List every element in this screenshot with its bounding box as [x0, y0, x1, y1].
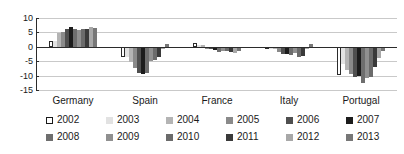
- legend-item[interactable]: 2007: [346, 114, 379, 126]
- bar-group: [37, 18, 109, 90]
- category-label: Portugal: [342, 95, 379, 107]
- bar: [93, 28, 97, 47]
- y-tick-label: -10: [20, 71, 33, 80]
- plot-area: [37, 18, 397, 90]
- legend: 200220032004200520062007 200820092010201…: [37, 114, 397, 148]
- gridline: [37, 90, 397, 91]
- legend-swatch-icon: [166, 117, 173, 124]
- legend-item[interactable]: 2003: [106, 114, 139, 126]
- legend-swatch-icon: [286, 117, 293, 124]
- legend-label: 2002: [57, 114, 79, 126]
- bar-group: [109, 18, 181, 90]
- y-tick-mark: [36, 76, 39, 77]
- category-axis-labels: GermanySpainFranceItalyPortugal: [37, 95, 397, 109]
- bar-group: [325, 18, 397, 90]
- category-label: Germany: [52, 95, 93, 107]
- category-label: Italy: [280, 95, 298, 107]
- legend-swatch-icon: [106, 134, 113, 141]
- legend-swatch-icon: [226, 117, 233, 124]
- legend-label: 2013: [357, 131, 379, 143]
- legend-label: 2003: [117, 114, 139, 126]
- y-tick-label: 0: [28, 42, 33, 51]
- category-label: Spain: [132, 95, 158, 107]
- legend-label: 2012: [297, 131, 319, 143]
- legend-swatch-icon: [46, 134, 53, 141]
- legend-swatch-icon: [46, 117, 53, 124]
- y-tick-label: -5: [25, 57, 33, 66]
- legend-swatch-icon: [286, 134, 293, 141]
- legend-label: 2005: [237, 114, 259, 126]
- legend-swatch-icon: [226, 134, 233, 141]
- legend-label: 2007: [357, 114, 379, 126]
- y-tick-label: 10: [23, 14, 33, 23]
- y-tick-mark: [36, 32, 39, 33]
- legend-item[interactable]: 2012: [286, 131, 319, 143]
- legend-label: 2011: [237, 131, 259, 143]
- legend-row-2: 200820092010201120122013: [37, 131, 397, 148]
- y-tick-mark: [36, 18, 39, 19]
- legend-label: 2010: [177, 131, 199, 143]
- legend-item[interactable]: 2009: [106, 131, 139, 143]
- zero-line: [37, 47, 397, 48]
- legend-label: 2008: [57, 131, 79, 143]
- y-tick-label: -15: [20, 86, 33, 95]
- bar-group: [181, 18, 253, 90]
- legend-swatch-icon: [106, 117, 113, 124]
- legend-item[interactable]: 2002: [46, 114, 79, 126]
- legend-item[interactable]: 2004: [166, 114, 199, 126]
- y-tick-mark: [36, 90, 39, 91]
- y-tick-label: 5: [28, 28, 33, 37]
- legend-label: 2006: [297, 114, 319, 126]
- y-tick-mark: [36, 61, 39, 62]
- bar-chart: 1050-5-10-15 GermanySpainFranceItalyPort…: [0, 0, 404, 154]
- legend-swatch-icon: [166, 134, 173, 141]
- legend-row-1: 200220032004200520062007: [37, 114, 397, 131]
- legend-label: 2009: [117, 131, 139, 143]
- legend-swatch-icon: [346, 117, 353, 124]
- legend-swatch-icon: [346, 134, 353, 141]
- legend-item[interactable]: 2011: [226, 131, 259, 143]
- legend-label: 2004: [177, 114, 199, 126]
- legend-item[interactable]: 2006: [286, 114, 319, 126]
- legend-item[interactable]: 2010: [166, 131, 199, 143]
- legend-item[interactable]: 2013: [346, 131, 379, 143]
- category-label: France: [201, 95, 232, 107]
- legend-item[interactable]: 2005: [226, 114, 259, 126]
- y-axis-tick-labels: 1050-5-10-15: [0, 18, 33, 90]
- bar-group: [253, 18, 325, 90]
- legend-item[interactable]: 2008: [46, 131, 79, 143]
